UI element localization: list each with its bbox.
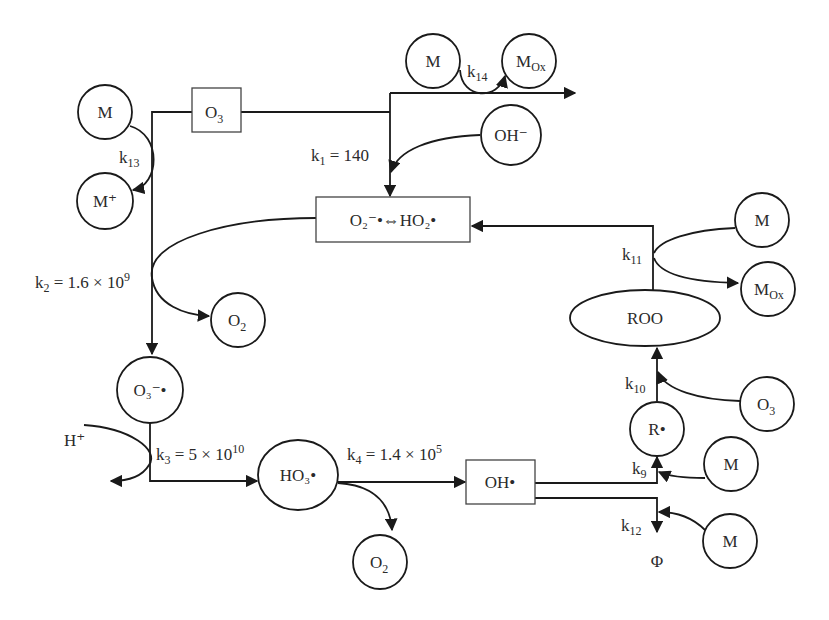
o3-to-o3radical-line	[152, 112, 192, 354]
svg-text:O₂⁻•⇔HO₂•: O₂⁻•⇔HO₂•	[350, 211, 437, 230]
svg-text:R•: R•	[648, 420, 665, 439]
svg-text:M⁺: M⁺	[93, 192, 117, 211]
oh-minus-node: OH⁻	[481, 105, 541, 165]
oh-radical-box: OH•	[466, 460, 535, 504]
mox-right-node: MOx	[741, 262, 795, 316]
roo-node: ROO	[570, 290, 720, 346]
oh-minus-curve	[391, 135, 480, 172]
mox-top-node: MOx	[502, 34, 556, 88]
k12-m-in	[659, 512, 705, 530]
ho3-o2-curve	[338, 483, 392, 530]
reaction-diagram: O3 O₂⁻•⇔HO₂• M M⁺ M MOx OH⁻ O2 O₃⁻• H⁺	[0, 0, 829, 620]
ho3-radical-node: HO₃•	[258, 440, 338, 510]
k14-label: k14	[467, 62, 488, 84]
k11-label: k11	[622, 245, 642, 267]
m-k9-node: M	[704, 437, 758, 491]
k9-m-in	[659, 472, 705, 478]
k3-label: k3 = 5 × 1010	[156, 442, 244, 467]
o2-mid-node: O2	[211, 293, 265, 347]
svg-text:HO₃•: HO₃•	[280, 466, 316, 485]
k11-m-in	[654, 228, 735, 253]
k10-o3-in	[658, 372, 740, 401]
r-radical-node: R•	[630, 402, 684, 456]
k1-label: k1 = 140	[311, 146, 369, 168]
k9-label: k9	[632, 459, 647, 481]
o3-right-node: O3	[740, 377, 794, 431]
phi-label: Φ	[651, 552, 663, 571]
superoxide-box: O₂⁻•⇔HO₂•	[316, 197, 470, 242]
svg-text:O₃⁻•: O₃⁻•	[133, 381, 166, 400]
k13-label: k13	[119, 148, 140, 170]
m-top-node: M	[406, 34, 460, 88]
k11-mox-out	[654, 258, 738, 283]
k2-label: k2 = 1.6 × 109	[35, 270, 130, 295]
h-plus-curve	[84, 425, 151, 481]
h-plus-label: H⁺	[64, 431, 85, 450]
o2-bottom-node: O2	[353, 535, 407, 589]
m-k12-node: M	[703, 514, 757, 568]
svg-text:OH⁻: OH⁻	[494, 126, 528, 145]
k12-label: k12	[621, 516, 642, 538]
svg-text:M: M	[97, 103, 112, 122]
svg-text:M: M	[425, 52, 440, 71]
svg-text:M: M	[723, 455, 738, 474]
o3-radical-node: O₃⁻•	[117, 357, 183, 423]
m-plus-node: M⁺	[77, 173, 133, 229]
o3-box: O3	[192, 88, 241, 132]
svg-text:M: M	[754, 211, 769, 230]
k4-label: k4 = 1.4 × 105	[347, 442, 442, 467]
svg-text:OH•: OH•	[485, 473, 516, 492]
svg-text:ROO: ROO	[627, 309, 663, 328]
k10-label: k10	[625, 374, 646, 396]
m-right-top-node: M	[735, 193, 789, 247]
svg-text:M: M	[722, 532, 737, 551]
m-top-left-node: M	[78, 85, 132, 139]
